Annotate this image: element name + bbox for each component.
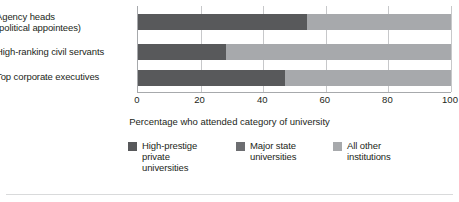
bottom-divider xyxy=(6,194,453,195)
legend-label-high-prestige: High-prestige private universities xyxy=(142,140,197,173)
legend-item-major-state: Major state universities xyxy=(236,140,331,162)
x-axis-tick-labels: 020406080100 xyxy=(0,94,459,108)
category-label-corporate-executives: Top corporate executives xyxy=(0,71,129,82)
legend-swatch-major-state xyxy=(236,142,245,151)
legend-label-all-other: All other institutions xyxy=(347,140,391,162)
x-tick-label-0: 0 xyxy=(134,94,139,106)
bar-row xyxy=(138,70,451,86)
gridline-100 xyxy=(451,6,452,92)
stacked-bar-chart-figure: Agency heads (political appointees) High… xyxy=(0,0,459,202)
category-label-civil-servants: High-ranking civil servants xyxy=(0,46,129,57)
bar-segment xyxy=(138,44,226,60)
legend-item-all-other: All other institutions xyxy=(333,140,443,162)
bar-row xyxy=(138,44,451,60)
bar-segment xyxy=(226,44,451,60)
plot-area xyxy=(137,6,451,92)
x-axis-line xyxy=(137,92,451,93)
bar-segment xyxy=(285,70,451,86)
x-tick-label-80: 80 xyxy=(382,94,393,106)
x-axis-title: Percentage who attended category of univ… xyxy=(0,116,459,127)
legend-item-high-prestige: High-prestige private universities xyxy=(128,140,228,173)
bar-segment xyxy=(138,70,285,86)
category-axis-labels: Agency heads (political appointees) High… xyxy=(0,6,133,92)
plot-wrapper: Agency heads (political appointees) High… xyxy=(0,6,459,92)
x-tick-label-100: 100 xyxy=(442,94,458,106)
bar-segment xyxy=(138,14,307,30)
legend-label-major-state: Major state universities xyxy=(250,140,296,162)
x-tick-label-40: 40 xyxy=(257,94,268,106)
bar-row xyxy=(138,14,451,30)
chart-legend: High-prestige private universities Major… xyxy=(128,140,459,188)
legend-swatch-all-other xyxy=(333,142,342,151)
category-label-agency-heads: Agency heads (political appointees) xyxy=(0,11,129,33)
bar-segment xyxy=(307,14,451,30)
x-tick-label-20: 20 xyxy=(194,94,205,106)
x-tick-label-60: 60 xyxy=(320,94,331,106)
legend-swatch-high-prestige xyxy=(128,142,137,151)
